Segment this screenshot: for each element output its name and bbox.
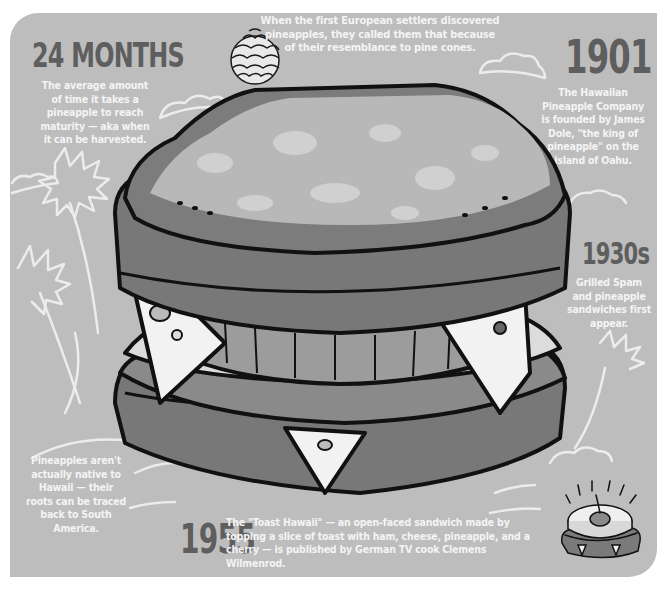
toast-hawaii-icon — [550, 473, 650, 573]
year-1901-headline: 1901 — [565, 33, 652, 81]
year-1930s-headline: 1930s — [582, 238, 649, 270]
months-headline: 24 MONTHS — [32, 37, 184, 73]
sandwich-illustration — [105, 73, 575, 523]
cloud-icon — [570, 190, 626, 203]
palm-tree-icon — [39, 148, 109, 217]
infographic-panel: 24 MONTHS The average amount of time it … — [10, 13, 657, 577]
year-1930s-fact-text: Grilled Spam and pineapple sandwiches fi… — [566, 276, 652, 330]
palm-tree-icon — [600, 331, 644, 369]
pinecone-fact-text: When the first European settlers discove… — [260, 14, 500, 55]
year-1955-fact-text: The "Toast Hawaii" — an open-faced sandw… — [226, 516, 544, 570]
